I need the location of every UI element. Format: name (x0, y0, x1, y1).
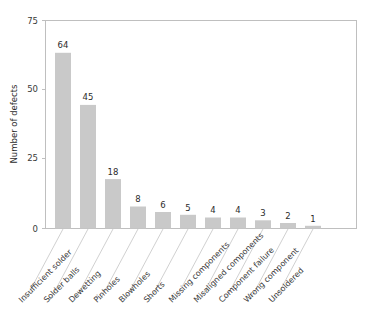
bar-wrong-component[interactable] (280, 223, 296, 229)
value-label-insufficient-solder: 64 (58, 40, 69, 50)
value-label-shorts: 5 (185, 203, 190, 213)
value-label-pinholes: 8 (135, 194, 140, 204)
defects-bar-chart: 75 50 25 0 Number of defects 64 (0, 0, 368, 331)
value-labels-group: 64 45 18 8 6 5 4 4 3 2 1 (58, 40, 316, 224)
y-tick-label-25: 25 (27, 153, 38, 163)
y-axis-title: Number of defects (9, 84, 19, 164)
value-label-missing-components: 4 (210, 205, 215, 215)
y-axis-ticks: 75 50 25 0 (27, 16, 45, 234)
value-label-wrong-component: 2 (285, 211, 290, 221)
bar-dewetting[interactable] (105, 179, 121, 228)
value-label-dewetting: 18 (108, 167, 119, 177)
value-label-component-failure: 3 (260, 208, 265, 218)
value-label-misaligned-components: 4 (235, 205, 240, 215)
y-tick-label-0: 0 (33, 224, 38, 234)
bar-blowholes[interactable] (155, 212, 171, 229)
bar-component-failure[interactable] (255, 220, 271, 228)
category-leader-lines (25, 229, 313, 300)
bar-solder-balls[interactable] (80, 105, 96, 229)
bar-unsoldered[interactable] (305, 226, 321, 229)
category-labels-group: Insufficient solder Solder balls Dewetti… (17, 231, 305, 304)
bar-insufficient-solder[interactable] (55, 53, 71, 229)
y-tick-label-50: 50 (27, 84, 38, 94)
chart-canvas: 75 50 25 0 Number of defects 64 (0, 0, 368, 331)
bar-missing-components[interactable] (205, 218, 221, 229)
value-label-unsoldered: 1 (310, 214, 315, 224)
category-label-shorts: Shorts (142, 280, 166, 304)
bar-misaligned-components[interactable] (230, 218, 246, 229)
bar-pinholes[interactable] (130, 207, 146, 229)
value-label-blowholes: 6 (160, 200, 165, 210)
y-tick-label-75: 75 (27, 16, 38, 26)
value-label-solder-balls: 45 (83, 92, 94, 102)
bar-shorts[interactable] (180, 215, 196, 229)
